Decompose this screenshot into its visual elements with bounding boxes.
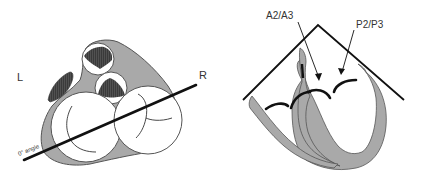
- arrow-a2-a3-head: [315, 73, 322, 81]
- diagram-canvas: L R 0° angle A2/A3 P2/P3: [0, 0, 423, 179]
- mitral-posterior-leaflet: [334, 80, 356, 92]
- septal-marker: [302, 64, 303, 78]
- arrow-p2-p3: [342, 30, 354, 72]
- label-right: R: [199, 69, 207, 81]
- four-chamber-view: A2/A3 P2/P3: [243, 10, 404, 170]
- mitral-valve: [51, 92, 121, 162]
- echo-sector-outline: [243, 25, 404, 100]
- label-left: L: [17, 71, 23, 83]
- label-p2-p3: P2/P3: [356, 19, 384, 30]
- label-a2-a3: A2/A3: [266, 10, 294, 21]
- arrow-p2-p3-head: [338, 68, 345, 75]
- short-axis-view: L R 0° angle: [17, 40, 207, 165]
